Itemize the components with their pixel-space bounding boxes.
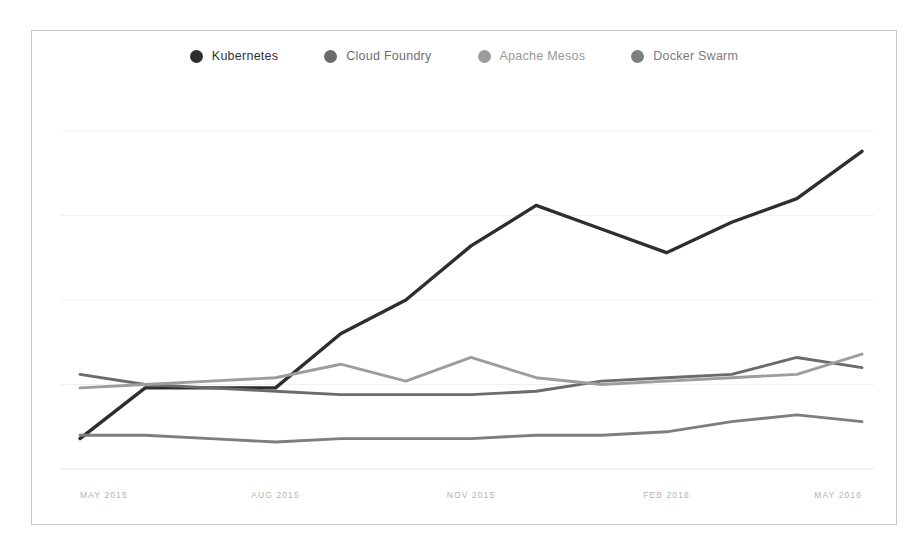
plot-area: MAY 2015AUG 2015NOV 2015FEB 2016MAY 2016	[32, 31, 898, 526]
x-axis-tick-labels: MAY 2015AUG 2015NOV 2015FEB 2016MAY 2016	[80, 490, 862, 500]
series-lines	[80, 151, 862, 442]
chart-card: Kubernetes Cloud Foundry Apache Mesos Do…	[31, 30, 897, 525]
x-tick-label: FEB 2016	[643, 490, 690, 500]
x-tick-label: MAY 2015	[80, 490, 128, 500]
x-tick-label: AUG 2015	[251, 490, 300, 500]
series-line-docker-swarm	[80, 415, 862, 442]
x-tick-label: NOV 2015	[447, 490, 496, 500]
x-tick-label: MAY 2016	[814, 490, 862, 500]
line-chart-svg: MAY 2015AUG 2015NOV 2015FEB 2016MAY 2016	[32, 31, 898, 526]
